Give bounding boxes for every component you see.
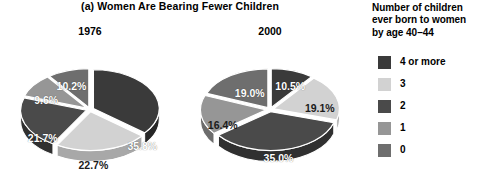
pie-slice-value-label: 35.0% — [264, 152, 294, 164]
legend: Number of children ever born to women by… — [372, 2, 486, 161]
pie-labels-1976: 35.8%22.7%21.7%9.6%10.2% — [2, 42, 178, 177]
legend-row: 3 — [372, 73, 486, 95]
pie-slice-value-label: 19.0% — [235, 87, 265, 99]
pie-slice-value-label: 10.2% — [57, 80, 87, 92]
pie-stage-2000: 10.5%19.1%35.0%16.4%19.0% — [180, 42, 360, 177]
legend-label: 1 — [400, 122, 406, 134]
pie-labels-2000: 10.5%19.1%35.0%16.4%19.0% — [180, 42, 360, 177]
pie-year-label: 2000 — [180, 25, 360, 38]
pie-slice-value-label: 22.7% — [78, 159, 108, 171]
pie-slice-value-label: 35.8% — [127, 140, 157, 152]
legend-items: 4 or more3210 — [372, 51, 486, 161]
legend-row: 4 or more — [372, 51, 486, 73]
pie-slice-value-label: 9.6% — [34, 94, 58, 106]
legend-label: 2 — [400, 100, 406, 112]
figure-title: (a) Women Are Bearing Fewer Children — [0, 0, 360, 13]
legend-swatch-icon — [378, 122, 391, 135]
pie-slice-value-label: 10.5% — [275, 80, 305, 92]
pie-slice-value-label: 19.1% — [305, 102, 335, 114]
legend-row: 2 — [372, 95, 486, 117]
legend-title: Number of children ever born to women by… — [372, 2, 486, 39]
pie-stage-1976: 35.8%22.7%21.7%9.6%10.2% — [2, 42, 178, 177]
figure-panel-a: (a) Women Are Bearing Fewer Children 197… — [0, 0, 486, 180]
legend-swatch-icon — [378, 56, 391, 69]
pie-slice-value-label: 21.7% — [28, 132, 58, 144]
legend-label: 3 — [400, 78, 406, 90]
pie-year-label: 1976 — [2, 25, 178, 38]
legend-swatch-icon — [378, 144, 391, 157]
pie-slice-value-label: 16.4% — [208, 119, 238, 131]
legend-row: 1 — [372, 117, 486, 139]
legend-label: 0 — [400, 144, 406, 156]
legend-row: 0 — [372, 139, 486, 161]
legend-swatch-icon — [378, 78, 391, 91]
legend-swatch-icon — [378, 100, 391, 113]
legend-label: 4 or more — [400, 56, 446, 68]
